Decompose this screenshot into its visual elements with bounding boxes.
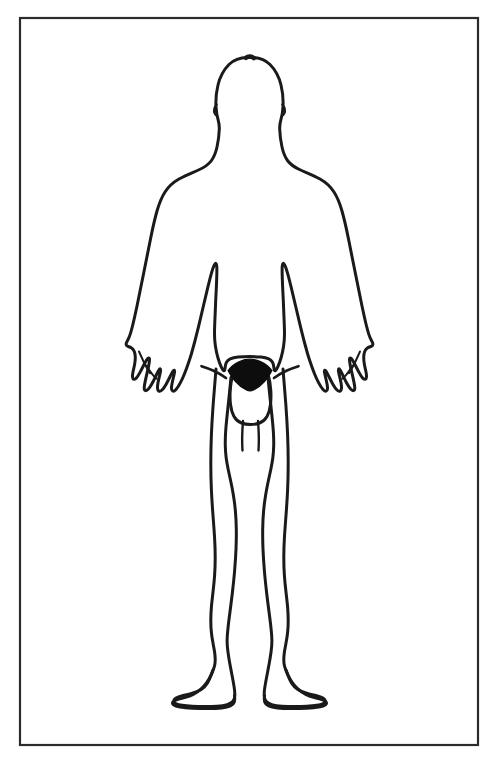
crown-mark-path	[246, 57, 254, 59]
body-diagram-canvas	[0, 0, 498, 768]
body-diagram-page	[0, 0, 498, 768]
